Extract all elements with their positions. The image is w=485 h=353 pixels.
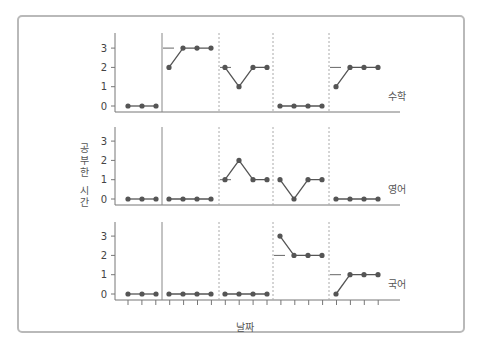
y-axis-title-char: 공 — [78, 143, 90, 155]
data-point — [125, 103, 130, 108]
data-point — [250, 65, 255, 70]
y-axis-title-char: 간 — [78, 197, 90, 209]
data-point — [277, 234, 282, 239]
data-point — [361, 65, 366, 70]
data-point — [319, 177, 324, 182]
svg-text:2: 2 — [101, 62, 107, 73]
data-point — [236, 291, 241, 296]
data-point — [194, 291, 199, 296]
svg-text:0: 0 — [101, 289, 107, 300]
y-axis-title-char: 한 — [78, 167, 90, 179]
data-point — [166, 65, 171, 70]
data-point — [264, 291, 269, 296]
data-point — [291, 253, 296, 258]
data-point — [180, 46, 185, 51]
data-point — [375, 65, 380, 70]
multiple-baseline-chart: 0123수학0123영어0123국어 — [0, 0, 485, 353]
data-point — [305, 253, 310, 258]
data-point — [319, 253, 324, 258]
data-point — [264, 65, 269, 70]
data-point — [208, 291, 213, 296]
subject-label: 수학 — [388, 91, 406, 102]
data-point — [194, 196, 199, 201]
panel-2: 0123국어 — [101, 222, 406, 305]
svg-text:3: 3 — [101, 136, 107, 147]
data-point — [222, 177, 227, 182]
x-axis-title: 날짜 — [236, 319, 254, 334]
data-point — [305, 103, 310, 108]
data-point — [305, 177, 310, 182]
data-point — [236, 84, 241, 89]
data-point — [333, 84, 338, 89]
svg-text:0: 0 — [101, 101, 107, 112]
data-point — [125, 196, 130, 201]
svg-text:1: 1 — [101, 81, 107, 92]
data-point — [208, 46, 213, 51]
data-point — [250, 291, 255, 296]
data-point — [194, 46, 199, 51]
svg-text:3: 3 — [101, 43, 107, 54]
data-point — [277, 103, 282, 108]
data-point — [347, 272, 352, 277]
data-point — [166, 196, 171, 201]
data-point — [125, 291, 130, 296]
data-point — [375, 196, 380, 201]
svg-text:0: 0 — [101, 194, 107, 205]
data-point — [333, 196, 338, 201]
data-point — [347, 65, 352, 70]
data-point — [277, 177, 282, 182]
subject-label: 영어 — [388, 184, 406, 195]
data-point — [153, 291, 158, 296]
data-point — [208, 196, 213, 201]
y-axis-title-char: 시 — [78, 185, 90, 197]
data-point — [222, 291, 227, 296]
data-point — [264, 177, 269, 182]
svg-text:2: 2 — [101, 155, 107, 166]
data-point — [291, 196, 296, 201]
data-point — [139, 291, 144, 296]
data-point — [166, 291, 171, 296]
svg-text:1: 1 — [101, 174, 107, 185]
data-point — [319, 103, 324, 108]
data-point — [361, 196, 366, 201]
data-point — [361, 272, 366, 277]
panel-1: 0123영어 — [101, 127, 406, 205]
data-point — [333, 291, 338, 296]
data-point — [153, 103, 158, 108]
y-axis-title: 공 부 한 시 간 — [78, 143, 90, 209]
data-point — [236, 158, 241, 163]
data-point — [180, 291, 185, 296]
y-axis-title-char: 부 — [78, 155, 90, 167]
data-point — [139, 196, 144, 201]
svg-text:2: 2 — [101, 250, 107, 261]
subject-label: 국어 — [388, 279, 406, 290]
data-point — [153, 196, 158, 201]
data-point — [250, 177, 255, 182]
panel-0: 0123수학 — [101, 33, 406, 112]
data-point — [180, 196, 185, 201]
data-point — [139, 103, 144, 108]
data-point — [375, 272, 380, 277]
svg-text:1: 1 — [101, 269, 107, 280]
svg-text:3: 3 — [101, 231, 107, 242]
data-point — [291, 103, 296, 108]
data-point — [222, 65, 227, 70]
data-point — [347, 196, 352, 201]
